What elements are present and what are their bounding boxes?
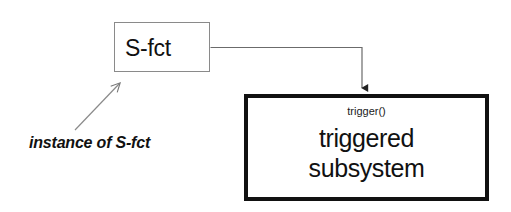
block-triggered-subsystem-name: triggered subsystem [248, 123, 485, 183]
trigger-port-label: trigger() [248, 105, 485, 118]
annotation-label: instance of S-fct [29, 133, 150, 153]
block-triggered-subsystem[interactable]: trigger() triggered subsystem [244, 94, 489, 201]
block-s-fct[interactable]: S-fct [114, 22, 210, 72]
annotation-leader-arrow [75, 84, 119, 130]
block-diagram-canvas: S-fct trigger() triggered subsystem inst… [0, 0, 511, 212]
subsystem-name-line-1: triggered [248, 123, 485, 153]
block-s-fct-label: S-fct [125, 33, 171, 63]
connector-sfct-to-subsystem [211, 48, 363, 89]
subsystem-name-line-2: subsystem [248, 153, 485, 183]
